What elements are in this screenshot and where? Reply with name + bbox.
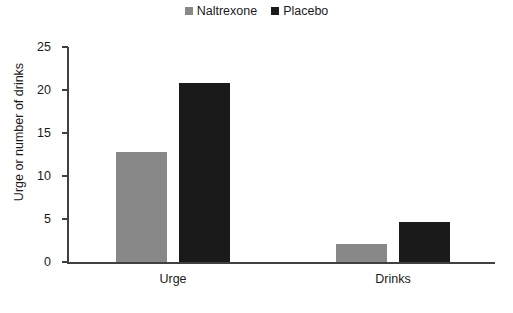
bar-chart-figure: Naltrexone Placebo Urge or number of dri… — [0, 0, 513, 313]
y-axis-tick — [62, 46, 68, 48]
y-axis-tick-label: 15 — [37, 126, 51, 140]
bar-urge-placebo — [179, 83, 230, 262]
y-axis-tick — [62, 218, 68, 220]
legend-swatch-placebo-icon — [271, 7, 279, 15]
y-axis-tick — [62, 132, 68, 134]
x-axis-line — [67, 262, 495, 264]
bar-urge-naltrexone — [116, 152, 167, 262]
y-axis-title-text: Urge or number of drinks — [12, 62, 26, 200]
legend-label-naltrexone: Naltrexone — [197, 5, 257, 18]
chart-legend: Naltrexone Placebo — [0, 2, 513, 20]
x-axis-label-drinks: Drinks — [375, 272, 410, 286]
y-axis-tick-label: 0 — [44, 255, 51, 269]
bar-drinks-naltrexone — [336, 244, 387, 262]
y-axis-tick — [62, 89, 68, 91]
y-axis-line — [67, 47, 69, 263]
y-axis-tick — [62, 175, 68, 177]
legend-entry-naltrexone: Naltrexone — [185, 5, 257, 18]
y-axis-tick-label: 20 — [37, 83, 51, 97]
x-axis-label-urge: Urge — [159, 272, 186, 286]
y-axis-title: Urge or number of drinks — [8, 0, 30, 263]
plot-area: 0510152025 — [67, 47, 495, 262]
y-axis-tick-label: 10 — [37, 169, 51, 183]
bar-drinks-placebo — [399, 222, 450, 262]
y-axis-tick-label: 5 — [44, 212, 51, 226]
y-axis-tick — [62, 261, 68, 263]
legend-label-placebo: Placebo — [283, 5, 328, 18]
legend-entry-placebo: Placebo — [271, 5, 328, 18]
legend-swatch-naltrexone-icon — [185, 7, 193, 15]
y-axis-tick-label: 25 — [37, 40, 51, 54]
